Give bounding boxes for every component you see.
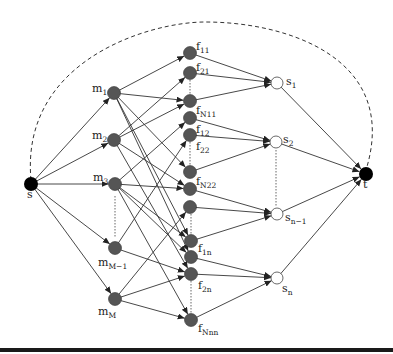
edge-m1-fc [114,93,188,251]
edge-f1n-sn-1 [191,216,271,241]
edge-m1-fN11 [114,93,184,100]
label-m2: m2 [92,129,107,144]
label-fNnn: fNnn [198,322,218,337]
node-fN11 [184,95,197,108]
flow-network-diagram: stm1m2m3mM−1mMf11f21fN11f12f22fN22f1nf2n… [0,0,393,354]
node-f12 [184,112,197,125]
label-mM-1: mM−1 [98,256,127,271]
edge-f2n-sn [191,274,271,278]
label-f21: f21 [196,61,210,76]
label-f11: f11 [196,40,210,55]
node-f21 [184,67,197,80]
node-mM [109,293,122,306]
node-fNnn [185,314,198,327]
node-fc [185,251,198,264]
edge-m2-fa [114,140,185,185]
node-f11 [184,47,197,60]
label-m1: m1 [92,82,107,97]
edge-fa-sn-1 [190,189,271,212]
node-fN22 [184,166,197,179]
label-m3: m3 [93,171,108,186]
label-f22: f22 [196,140,210,155]
edge-mM-fNnn [115,299,185,318]
node-s2 [270,136,282,148]
label-f1n: f1n [198,242,212,257]
bottom-rule [0,348,393,352]
node-f1n [185,235,198,248]
node-s1 [271,77,283,89]
edge-mM-f2n [115,276,185,299]
label-sink: t [363,178,368,191]
node-sn-1 [271,208,283,220]
node-fb [184,201,197,214]
edge-s-mM [31,184,111,294]
node-fa [184,183,197,196]
node-m1 [108,87,121,100]
label-fN11: fN11 [196,104,216,119]
edge-fN11-s1 [190,84,271,101]
node-f22 [184,129,197,142]
node-f2n [185,268,198,281]
label-sn: sn [282,282,293,297]
edge-mM-fb [115,212,186,299]
edge-sn-t [277,179,361,278]
label-s2: s2 [283,133,294,148]
label-fN22: fN22 [196,175,216,190]
label-source: s [27,188,33,201]
label-mM: mM [98,305,116,320]
label-sn-1: sn−1 [285,211,307,226]
node-m2 [108,134,121,147]
edge-s1-t [277,83,361,169]
edge-s-mM-1 [31,184,110,244]
edge-fb-sn-1 [190,207,271,214]
node-mM-1 [109,242,122,255]
label-s1: s1 [286,75,296,90]
node-m3 [109,178,122,191]
label-f12: f12 [196,123,210,138]
edge-m3-fa [115,184,184,189]
label-f2n: f2n [198,279,212,294]
edge-fc-sn [191,257,271,277]
edge-m3-f12 [115,122,185,184]
labels: stm1m2m3mM−1mMf11f21fN11f12f22fN22f1nf2n… [27,40,368,337]
